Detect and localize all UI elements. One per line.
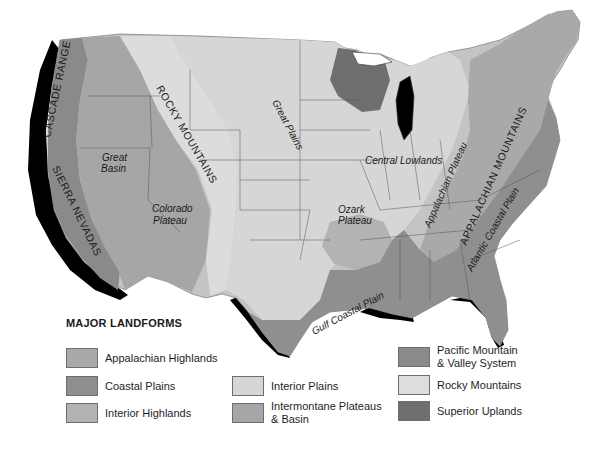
- legend-title: MAJOR LANDFORMS: [66, 317, 182, 329]
- swatch-appalachian-highlands: [66, 348, 98, 368]
- legend-item-rocky-mountains: Rocky Mountains: [398, 375, 521, 395]
- legend-item-pacific-mountain: Pacific Mountain & Valley System: [398, 344, 518, 370]
- swatch-interior-highlands: [66, 403, 98, 423]
- legend-item-interior-highlands: Interior Highlands: [66, 403, 191, 423]
- legend-item-appalachian-highlands: Appalachian Highlands: [66, 348, 218, 368]
- swatch-pacific-mountain: [398, 347, 430, 367]
- legend-label: Pacific Mountain & Valley System: [437, 344, 518, 370]
- legend-label: Appalachian Highlands: [105, 352, 218, 365]
- legend-label: Rocky Mountains: [437, 379, 521, 392]
- label-great-basin-1: Great: [102, 152, 128, 163]
- label-colorado-plateau-1: Colorado: [152, 203, 193, 214]
- label-ozark-plateau-1: Ozark: [338, 204, 366, 215]
- label-colorado-plateau-2: Plateau: [153, 215, 187, 226]
- swatch-intermontane: [232, 403, 264, 423]
- label-central-lowlands: Central Lowlands: [365, 155, 442, 166]
- swatch-superior-uplands: [398, 401, 430, 421]
- landforms-map: CASCADE RANGE SIERRA NEVADAS ROCKY MOUNT…: [0, 0, 606, 451]
- legend-item-intermontane: Intermontane Plateaus & Basin: [232, 400, 382, 426]
- legend-item-interior-plains: Interior Plains: [232, 376, 338, 396]
- legend-label: Coastal Plains: [105, 380, 175, 393]
- swatch-rocky-mountains: [398, 375, 430, 395]
- legend-item-coastal-plains: Coastal Plains: [66, 376, 175, 396]
- legend-label: Superior Uplands: [437, 405, 522, 418]
- legend-label: Interior Highlands: [105, 407, 191, 420]
- legend-item-superior-uplands: Superior Uplands: [398, 401, 522, 421]
- legend-label: Intermontane Plateaus & Basin: [271, 400, 382, 426]
- label-great-basin-2: Basin: [101, 163, 126, 174]
- legend-label: Interior Plains: [271, 380, 338, 393]
- label-ozark-plateau-2: Plateau: [338, 215, 372, 226]
- swatch-coastal-plains: [66, 376, 98, 396]
- swatch-interior-plains: [232, 376, 264, 396]
